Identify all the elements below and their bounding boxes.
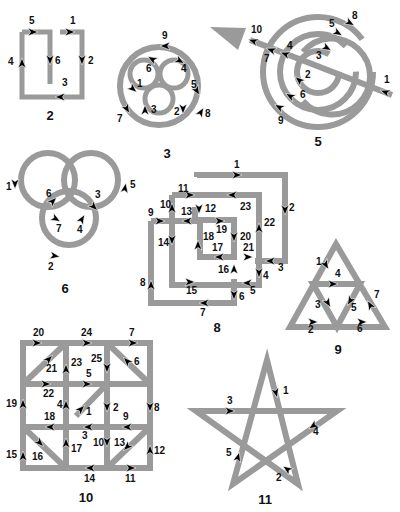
step-label: 10 [160,199,172,210]
step-label: 22 [43,388,55,399]
step-label: 20 [33,327,45,338]
step-label: 2 [289,202,295,213]
step-label: 6 [357,323,363,334]
step-label: 8 [352,10,358,21]
step-label: 4 [181,63,187,74]
figure-8: 1 2 3 4 5 6 7 8 9 10 11 12 13 14 15 16 1… [140,159,295,335]
step-label: 7 [374,289,380,300]
figure-5: 1 2 3 4 5 6 7 8 9 10 5 [210,10,392,149]
step-label: 20 [240,231,252,242]
step-label: 18 [44,411,56,422]
step-label: 9 [123,411,129,422]
step-label: 7 [117,113,123,124]
figure-5-arrowhead [210,27,246,50]
figure-10-diag-1 [23,343,66,384]
step-label: 7 [129,327,135,338]
step-label: 3 [151,104,157,115]
figure-11: 1 2 3 4 5 11 [196,360,337,507]
step-label: 3 [62,77,68,88]
figure-caption: 2 [46,108,53,123]
figure-11-pentagram [196,360,337,484]
step-label: 22 [264,217,276,228]
figure-caption: 8 [213,320,220,335]
step-label: 3 [82,430,88,441]
step-label: 5 [191,79,197,90]
figure-9: 1 2 3 4 5 6 7 9 [290,244,385,357]
step-label: 21 [46,363,58,374]
step-label: 2 [113,402,119,413]
step-label: 2 [48,261,54,272]
step-label: 9 [162,30,168,41]
figure-caption: 6 [61,281,68,296]
step-label: 5 [86,368,92,379]
step-label: 17 [71,443,83,454]
step-label: 13 [114,437,126,448]
step-label: 5 [329,18,335,29]
figure-caption: 5 [314,134,321,149]
figure-caption: 3 [163,146,170,161]
step-label: 5 [351,302,357,313]
step-label: 6 [46,188,52,199]
step-label: 4 [77,224,83,235]
step-label: 6 [239,291,245,302]
step-label: 19 [216,224,228,235]
step-label: 2 [88,55,94,66]
step-label: 7 [56,223,62,234]
step-label: 14 [84,473,96,484]
step-label: 4 [335,268,341,279]
figure-3: 1 2 3 4 5 6 7 8 9 3 [117,30,211,161]
step-label: 21 [243,242,255,253]
step-label: 5 [29,15,35,26]
step-label: 16 [218,264,230,275]
step-label: 2 [308,324,314,335]
step-label: 19 [6,398,18,409]
step-label: 6 [134,356,140,367]
step-label: 1 [86,406,92,417]
step-label: 3 [95,189,101,200]
step-label: 10 [251,24,263,35]
step-label: 24 [81,327,93,338]
arrow-icon [243,253,253,261]
step-label: 1 [137,78,143,89]
step-label: 8 [140,277,146,288]
figure-caption: 9 [334,342,341,357]
step-label: 12 [205,203,217,214]
figure-10-diag-4 [23,427,66,468]
step-label: 2 [276,472,282,483]
step-label: 1 [70,15,76,26]
arrow-icon [11,179,19,189]
step-label: 4 [57,399,63,410]
step-label: 15 [6,449,18,460]
step-label: 3 [278,262,284,273]
step-label: 23 [240,201,252,212]
step-label: 5 [130,179,136,190]
figure-2-inner-path [22,32,50,84]
step-label: 3 [227,395,233,406]
step-label: 5 [250,285,256,296]
step-label: 8 [154,402,160,413]
step-label: 6 [146,63,152,74]
step-label: 16 [32,451,44,462]
step-label: 6 [55,55,61,66]
step-label: 1 [283,385,289,396]
step-label: 4 [8,56,14,67]
step-label: 12 [154,445,166,456]
step-label: 1 [6,181,12,192]
step-label: 17 [212,242,224,253]
step-label: 9 [148,207,154,218]
figure-caption: 11 [258,492,272,507]
step-label: 7 [264,53,270,64]
figure-6: 1 2 3 4 5 6 7 6 [6,153,136,296]
arrow-icon [120,182,130,193]
arrow-icon [49,251,60,261]
figure-caption: 10 [79,490,93,505]
step-label: 1 [316,256,322,267]
step-label: 1 [234,159,240,170]
step-label: 4 [287,40,293,51]
step-label: 9 [278,115,284,126]
step-label: 4 [313,426,319,437]
step-label: 11 [125,473,136,484]
step-label: 11 [178,183,189,194]
figure-10: 1 2 3 4 5 6 7 8 9 10 11 12 13 14 15 16 1… [6,327,166,505]
step-label: 18 [203,231,215,242]
